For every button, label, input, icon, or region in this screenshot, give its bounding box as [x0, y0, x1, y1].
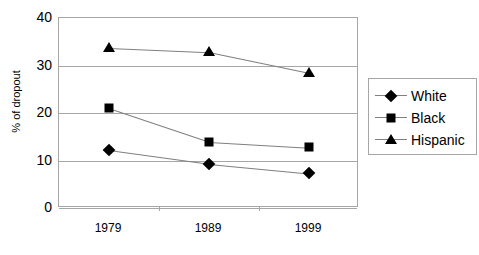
y-axis-tick-labels: 010203040: [0, 17, 52, 207]
y-axis-tick-label: 10: [6, 153, 52, 167]
gridline: [59, 113, 357, 114]
legend-item-black: Black: [375, 107, 445, 129]
series-line-segment: [109, 48, 209, 53]
legend-item-white: White: [375, 85, 447, 107]
data-point-white: [103, 144, 116, 157]
line-chart: % of dropout 010203040 197919891999 Whit…: [0, 0, 479, 255]
legend-key: [375, 86, 407, 106]
data-point-black: [305, 143, 314, 152]
legend-item-hispanic: Hispanic: [375, 129, 465, 151]
y-axis-tick-label: 20: [6, 105, 52, 119]
legend: WhiteBlackHispanic: [368, 78, 477, 155]
plot-area: [58, 17, 358, 207]
series-line-segment: [109, 150, 209, 165]
triangle-marker-icon: [385, 134, 397, 144]
data-point-hispanic: [303, 67, 315, 77]
x-axis-tick-label: 1989: [168, 222, 248, 234]
data-point-hispanic: [103, 42, 115, 52]
legend-label: Black: [407, 111, 445, 125]
legend-key: [375, 130, 407, 150]
data-point-black: [205, 137, 214, 146]
series-line-segment: [209, 164, 309, 174]
legend-label: White: [407, 89, 447, 103]
data-point-hispanic: [203, 46, 215, 56]
data-point-white: [303, 167, 316, 180]
square-marker-icon: [387, 114, 396, 123]
y-axis-tick-label: 0: [6, 200, 52, 214]
diamond-marker-icon: [385, 90, 398, 103]
y-axis-tick-label: 40: [6, 10, 52, 24]
x-axis-tick: [159, 206, 160, 211]
gridline: [59, 208, 357, 209]
x-axis-tick: [259, 206, 260, 211]
x-axis-tick-label: 1999: [268, 222, 348, 234]
data-point-black: [105, 103, 114, 112]
series-line-segment: [209, 142, 309, 149]
y-axis-tick-label: 30: [6, 58, 52, 72]
data-point-white: [203, 157, 216, 170]
x-axis-tick-label: 1979: [68, 222, 148, 234]
series-line-segment: [209, 52, 309, 74]
legend-label: Hispanic: [407, 133, 465, 147]
legend-key: [375, 108, 407, 128]
